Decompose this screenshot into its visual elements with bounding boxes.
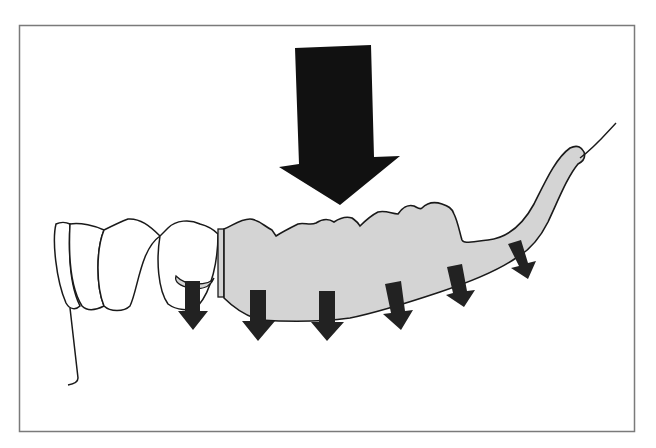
diagram-stage [0,0,656,448]
denture-force-diagram [0,0,656,448]
minor-connector [218,229,224,297]
